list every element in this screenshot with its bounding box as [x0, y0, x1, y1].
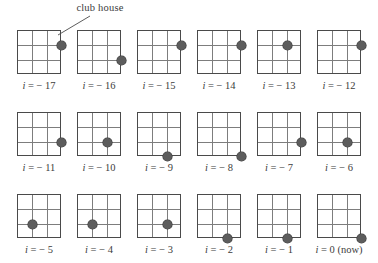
grid-line-vertical — [212, 113, 213, 155]
walker-marker-with-arrow — [56, 137, 67, 148]
grid-line-vertical — [272, 113, 273, 155]
grid-line-vertical — [227, 31, 228, 73]
lattice-board — [137, 30, 181, 74]
walker-dot — [28, 220, 37, 229]
walk-panel — [68, 30, 130, 74]
grid-line-horizontal — [78, 60, 120, 61]
grid-line-vertical — [227, 113, 228, 155]
grid-line-horizontal — [198, 209, 240, 210]
lattice-board — [257, 30, 301, 74]
walker-marker-with-arrow — [162, 219, 173, 230]
lattice-board — [77, 30, 121, 74]
grid-line-horizontal — [258, 127, 300, 128]
grid-line-horizontal — [258, 209, 300, 210]
walker-marker-with-arrow — [176, 40, 187, 51]
grid-line-horizontal — [138, 127, 180, 128]
grid-line-horizontal — [318, 45, 360, 46]
walk-panel — [188, 30, 250, 74]
grid-line-horizontal — [318, 127, 360, 128]
grid-line-horizontal — [258, 45, 300, 46]
grid-line-horizontal — [18, 45, 60, 46]
grid-line-vertical — [92, 31, 93, 73]
grid-line-horizontal — [138, 209, 180, 210]
grid-line-vertical — [227, 195, 228, 237]
lattice-board — [77, 112, 121, 156]
random-walk-figure: club house i = − 17i = − 16i = − 15i = −… — [0, 0, 378, 263]
walk-panel — [128, 30, 190, 74]
grid-line-horizontal — [198, 224, 240, 225]
walk-panel — [248, 112, 310, 156]
walker-marker-with-arrow — [296, 137, 307, 148]
walker-dot — [103, 138, 112, 147]
lattice-board — [317, 30, 361, 74]
walk-panel — [248, 30, 310, 74]
grid-line-horizontal — [78, 127, 120, 128]
walk-panel — [128, 112, 190, 156]
walker-dot — [57, 138, 66, 147]
lattice-board — [317, 112, 361, 156]
lattice-board — [317, 194, 361, 238]
grid-line-vertical — [272, 31, 273, 73]
walker-marker-with-arrow — [282, 233, 293, 244]
walker-dot — [57, 41, 66, 50]
grid-line-vertical — [107, 113, 108, 155]
grid-line-vertical — [47, 113, 48, 155]
grid-line-vertical — [287, 195, 288, 237]
grid-line-horizontal — [18, 142, 60, 143]
lattice-board — [257, 194, 301, 238]
walker-dot — [88, 220, 97, 229]
walker-marker-with-arrow — [102, 137, 113, 148]
grid-line-horizontal — [258, 224, 300, 225]
walk-panel — [68, 194, 130, 238]
grid-line-horizontal — [318, 142, 360, 143]
grid-line-horizontal — [78, 209, 120, 210]
walk-panel — [188, 112, 250, 156]
grid-line-vertical — [167, 113, 168, 155]
lattice-board — [137, 194, 181, 238]
walker-marker — [356, 233, 367, 244]
grid-line-vertical — [167, 31, 168, 73]
grid-line-horizontal — [198, 142, 240, 143]
walker-marker-with-arrow — [356, 40, 367, 51]
grid-line-horizontal — [318, 60, 360, 61]
grid-line-vertical — [347, 31, 348, 73]
lattice-board — [17, 112, 61, 156]
walker-dot — [283, 234, 292, 243]
walker-marker-with-arrow — [236, 40, 247, 51]
grid-line-vertical — [32, 113, 33, 155]
walker-dot — [223, 234, 232, 243]
grid-line-vertical — [167, 195, 168, 237]
panel-caption: i = 0 (now) — [294, 244, 378, 255]
grid-line-vertical — [332, 113, 333, 155]
grid-line-horizontal — [318, 224, 360, 225]
grid-line-vertical — [152, 31, 153, 73]
grid-line-horizontal — [258, 142, 300, 143]
walker-marker-with-arrow — [87, 219, 98, 230]
walker-marker-with-arrow — [162, 151, 173, 162]
grid-line-vertical — [92, 195, 93, 237]
grid-line-horizontal — [18, 127, 60, 128]
walker-marker-with-arrow — [236, 151, 247, 162]
lattice-board — [257, 112, 301, 156]
walker-dot — [283, 41, 292, 50]
walker-dot — [343, 138, 352, 147]
grid-line-horizontal — [258, 60, 300, 61]
grid-line-horizontal — [198, 127, 240, 128]
grid-line-vertical — [92, 113, 93, 155]
walker-dot — [163, 220, 172, 229]
grid-line-vertical — [212, 31, 213, 73]
grid-line-horizontal — [138, 45, 180, 46]
walk-panel — [8, 112, 70, 156]
walk-panel — [8, 30, 70, 74]
grid-line-vertical — [332, 195, 333, 237]
grid-line-vertical — [47, 31, 48, 73]
walk-panel — [128, 194, 190, 238]
grid-line-horizontal — [138, 60, 180, 61]
walker-marker-with-arrow — [282, 40, 293, 51]
grid-line-horizontal — [18, 224, 60, 225]
walk-panel — [8, 194, 70, 238]
walker-marker-with-arrow — [342, 137, 353, 148]
grid-line-vertical — [212, 195, 213, 237]
walk-panel — [308, 112, 370, 156]
walker-marker-with-arrow — [116, 55, 127, 66]
